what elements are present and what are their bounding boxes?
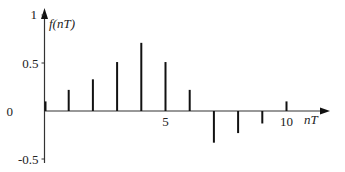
- x-tick-label: 10: [280, 114, 293, 129]
- x-axis-label: nT: [304, 112, 319, 127]
- stem-plot: 10.50-0.5510 f(nT) nT: [0, 0, 345, 172]
- y-tick-label: 1: [31, 7, 38, 22]
- y-axis-label: f(nT): [49, 16, 75, 31]
- y-tick-label: -0.5: [18, 152, 39, 167]
- y-tick-label: 0.5: [22, 56, 38, 71]
- x-axis-arrow-icon: [320, 108, 330, 115]
- axes: [41, 8, 330, 163]
- y-tick-label: 0: [7, 104, 14, 119]
- y-axis-arrow-icon: [41, 8, 48, 19]
- x-tick-label: 5: [162, 114, 169, 129]
- tick-labels: 10.50-0.5510: [7, 7, 294, 167]
